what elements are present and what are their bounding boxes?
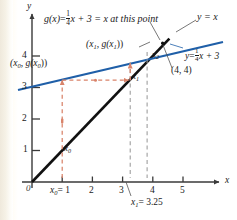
title-tail: x + 3 = x at this point (70, 13, 158, 24)
figure-canvas: g(x)=14x + 3 = x at this point y = x y=1… (0, 0, 237, 220)
marker-x2-sub: 2 (156, 54, 159, 60)
marker-label-x1: x1 (132, 72, 139, 82)
label-y-equals-x: y = x (197, 12, 218, 22)
title-equals: = (60, 13, 66, 24)
annotation-x1-value: x1= 3.25 (131, 198, 163, 208)
fixed-point-marker (161, 42, 164, 45)
y-tick-marks (32, 56, 40, 151)
leader-x1-value (126, 182, 131, 196)
point-x0-close: )) (41, 58, 47, 68)
x-tick-label-5: 5 (180, 186, 185, 196)
origin-label: 0 (26, 184, 31, 193)
leader-y-equals-x (176, 20, 196, 32)
x-tick-label-3: 3 (119, 186, 124, 196)
y-tick-label-4: 4 (22, 51, 27, 61)
label-fixed-point: (4, 4) (171, 66, 192, 76)
y-tick-label-1: 1 (23, 145, 28, 155)
leader-point-x1 (139, 42, 150, 47)
y-tick-label-3: 3 (22, 82, 27, 92)
blue-label-equals: = (189, 51, 194, 61)
x-tick-marks (62, 177, 183, 183)
x-tick-label-4: 4 (150, 186, 155, 196)
title-g-of-x: g(x) (44, 13, 60, 24)
blue-label-tail: x + 3 (199, 51, 219, 61)
marker-x1-sub: 1 (136, 76, 139, 82)
x-tick-label-2: 2 (89, 186, 94, 196)
cobweb-markers (61, 79, 97, 124)
point-x1-mid: , g(x (97, 39, 114, 49)
x-tick-label-x0: x0= 1 (50, 186, 70, 196)
title-equation: g(x)=14x + 3 = x at this point (44, 10, 158, 26)
marker-label-x2: x2 (152, 50, 159, 60)
leader-blue-eq (170, 44, 183, 48)
label-point-x1: (x1, g(x1)) (86, 40, 123, 50)
axis-label-y: y (27, 2, 31, 12)
marker-label-x0: x0 (64, 144, 71, 154)
x1-value: = 3.25 (138, 197, 162, 207)
y-tick-label-2: 2 (22, 114, 27, 124)
label-point-x0: (x0, g(x0)) (10, 59, 47, 69)
x0-value: = 1 (57, 185, 69, 195)
point-x1-close: )) (117, 39, 123, 49)
label-blue-line-equation: y=14x + 3 (185, 48, 219, 63)
marker-x0-sub: 0 (68, 148, 71, 154)
axis-label-x: x (225, 176, 229, 186)
